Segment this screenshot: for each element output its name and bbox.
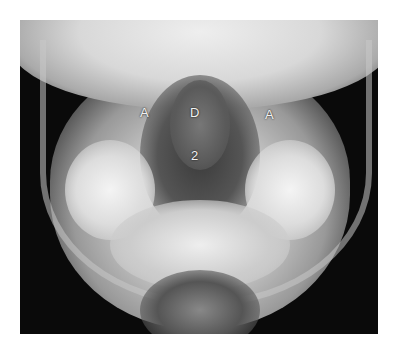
xray-image: A D A 2 xyxy=(20,20,378,334)
label-c2: 2 xyxy=(191,148,198,163)
label-atlas-right: A xyxy=(265,107,274,122)
label-dens: D xyxy=(190,105,199,120)
dens-region xyxy=(170,80,230,170)
label-atlas-left: A xyxy=(140,105,149,120)
